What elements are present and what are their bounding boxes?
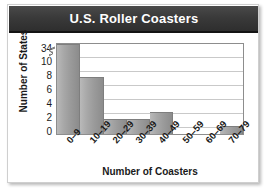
chart-figure: U.S. Roller Coasters Number of States 34… (7, 4, 259, 183)
x-axis-title: Number of Coasters (56, 166, 244, 177)
bar-slot (80, 44, 103, 134)
y-tick-label: 4 (26, 99, 52, 108)
chart-body: Number of States 34 10 8 6 4 2 0 (8, 35, 259, 183)
y-tick-label: 6 (26, 85, 52, 94)
y-tick-label: 0 (26, 127, 52, 136)
y-tick-label: 2 (26, 113, 52, 122)
bar-slot (57, 44, 80, 134)
page-title: U.S. Roller Coasters (70, 11, 199, 26)
chart-title-banner: U.S. Roller Coasters (9, 6, 259, 33)
bar-0-9 (57, 44, 80, 134)
x-axis-tick-labels: 0–9 10–19 20–29 30–39 40–49 50–59 60–69 … (56, 136, 244, 170)
y-tick-label: 8 (26, 71, 52, 80)
